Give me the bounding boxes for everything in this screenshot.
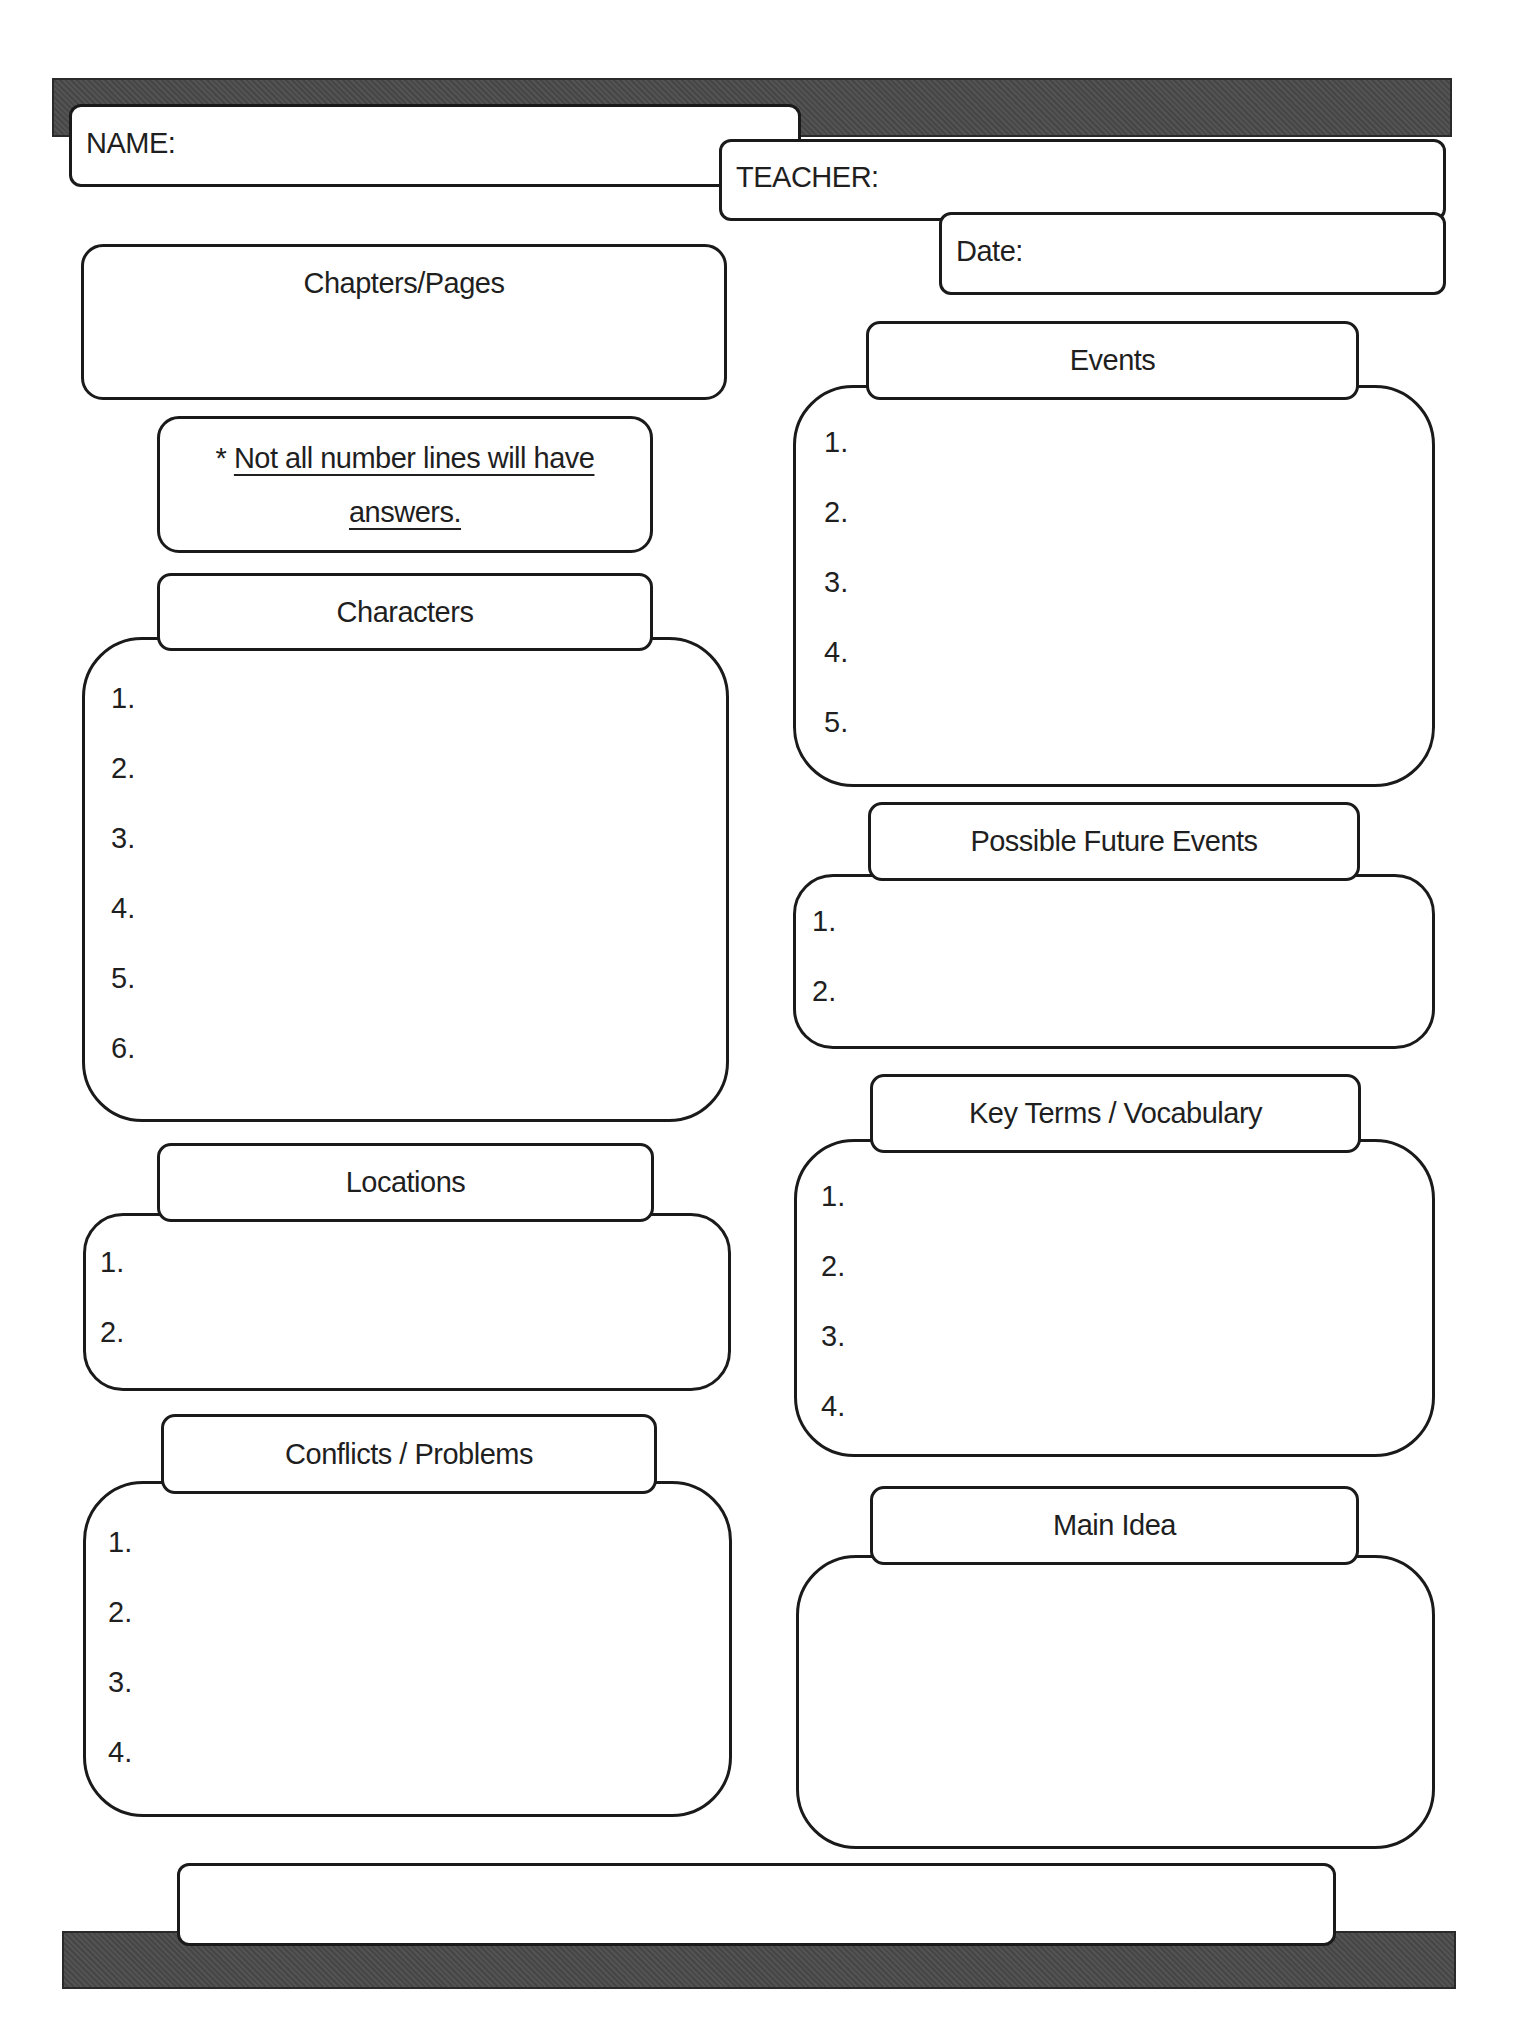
list-item: 1. [108, 1526, 132, 1559]
list-item: 5. [111, 962, 135, 995]
list-item: 4. [821, 1390, 845, 1423]
chapters-pages-box[interactable]: Chapters/Pages [81, 244, 727, 400]
future-events-box[interactable]: 1. 2. [793, 874, 1435, 1049]
list-item: 4. [111, 892, 135, 925]
list-item: 1. [821, 1180, 845, 1213]
characters-box[interactable]: 1. 2. 3. 4. 5. 6. [82, 637, 729, 1122]
note-asterisk: * [216, 442, 227, 474]
teacher-label: TEACHER: [736, 161, 879, 194]
characters-header: Characters [157, 573, 653, 651]
instruction-note: * Not all number lines will have answers… [157, 416, 653, 553]
conflicts-box[interactable]: 1. 2. 3. 4. [83, 1481, 732, 1817]
name-field[interactable]: NAME: [69, 104, 801, 187]
list-item: 1. [824, 426, 848, 459]
list-item: 3. [108, 1666, 132, 1699]
list-item: 1. [812, 905, 836, 938]
list-item: 2. [812, 975, 836, 1008]
list-item: 2. [100, 1316, 124, 1349]
key-terms-header: Key Terms / Vocabulary [870, 1074, 1361, 1153]
list-item: 2. [111, 752, 135, 785]
list-item: 4. [108, 1736, 132, 1769]
date-field[interactable]: Date: [939, 212, 1446, 295]
list-item: 6. [111, 1032, 135, 1065]
locations-header: Locations [157, 1143, 654, 1222]
note-text-2: answers. [349, 496, 461, 528]
list-item: 1. [100, 1246, 124, 1279]
chapters-pages-title: Chapters/Pages [84, 267, 724, 300]
conflicts-header: Conflicts / Problems [161, 1414, 657, 1494]
future-events-header: Possible Future Events [868, 802, 1360, 881]
list-item: 2. [108, 1596, 132, 1629]
teacher-field[interactable]: TEACHER: [719, 139, 1446, 221]
list-item: 4. [824, 636, 848, 669]
events-header: Events [866, 321, 1359, 400]
locations-box[interactable]: 1. 2. [83, 1213, 731, 1391]
main-idea-header: Main Idea [870, 1486, 1359, 1565]
note-line-2: answers. [349, 485, 461, 539]
list-item: 3. [821, 1320, 845, 1353]
note-text-1: Not all number lines will have [234, 442, 595, 474]
note-line-1: * Not all number lines will have [216, 431, 595, 485]
footer-box[interactable] [177, 1863, 1336, 1946]
main-idea-box[interactable] [796, 1555, 1435, 1849]
list-item: 3. [111, 822, 135, 855]
list-item: 5. [824, 706, 848, 739]
list-item: 3. [824, 566, 848, 599]
events-box[interactable]: 1. 2. 3. 4. 5. [793, 385, 1435, 787]
list-item: 2. [821, 1250, 845, 1283]
name-label: NAME: [86, 126, 175, 159]
key-terms-box[interactable]: 1. 2. 3. 4. [794, 1139, 1435, 1457]
list-item: 1. [111, 682, 135, 715]
list-item: 2. [824, 496, 848, 529]
date-label: Date: [956, 234, 1023, 267]
